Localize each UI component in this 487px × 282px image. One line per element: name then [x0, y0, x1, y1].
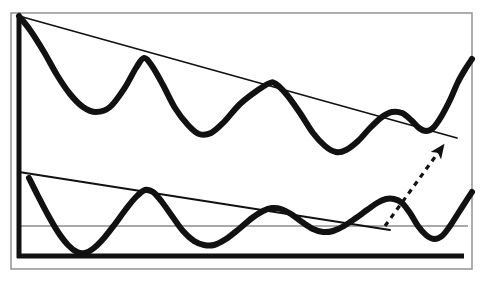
technical-analysis-chart	[0, 0, 487, 282]
chart-background	[0, 0, 487, 282]
chart-figure	[0, 0, 487, 282]
